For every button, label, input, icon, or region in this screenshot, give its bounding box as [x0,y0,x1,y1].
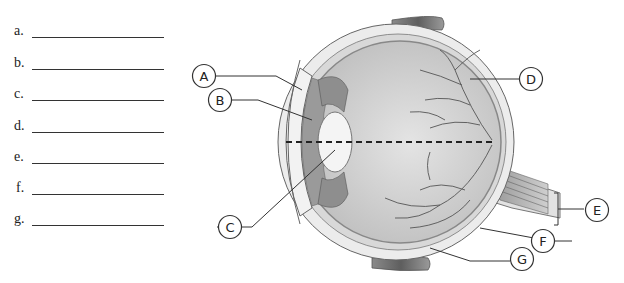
svg-text:A: A [200,69,209,84]
svg-text:C: C [225,220,234,235]
eye-diagram: A B C D E F G [0,0,624,283]
svg-text:D: D [526,72,536,87]
label-C: C [219,216,242,239]
label-B: B [209,89,232,112]
svg-text:B: B [216,93,225,108]
label-F: F [532,230,555,253]
svg-text:E: E [593,203,601,218]
label-G: G [511,248,534,271]
label-A: A [193,65,216,88]
svg-text:G: G [517,252,527,267]
label-E: E [586,199,609,222]
label-D: D [520,68,543,91]
svg-text:F: F [539,234,546,249]
